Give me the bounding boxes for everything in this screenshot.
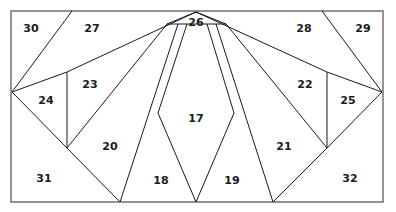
region-label-22: 22 (297, 78, 312, 91)
region-label-21: 21 (276, 140, 291, 153)
region-label-27: 27 (84, 22, 99, 35)
region-label-32: 32 (342, 172, 357, 185)
polygon-partition-diagram: 17181920212223242526272829303132 (0, 0, 396, 212)
region-label-31: 31 (36, 172, 51, 185)
region-label-24: 24 (38, 94, 54, 107)
region-label-19: 19 (224, 174, 239, 187)
region-label-23: 23 (82, 78, 97, 91)
diagram-root: 17181920212223242526272829303132 (0, 0, 396, 212)
region-label-17: 17 (188, 112, 203, 125)
region-label-25: 25 (340, 94, 355, 107)
region-label-26: 26 (188, 16, 204, 29)
region-label-18: 18 (153, 174, 168, 187)
region-label-29: 29 (355, 22, 370, 35)
region-label-30: 30 (23, 22, 39, 35)
region-label-28: 28 (296, 22, 311, 35)
region-label-20: 20 (102, 140, 118, 153)
